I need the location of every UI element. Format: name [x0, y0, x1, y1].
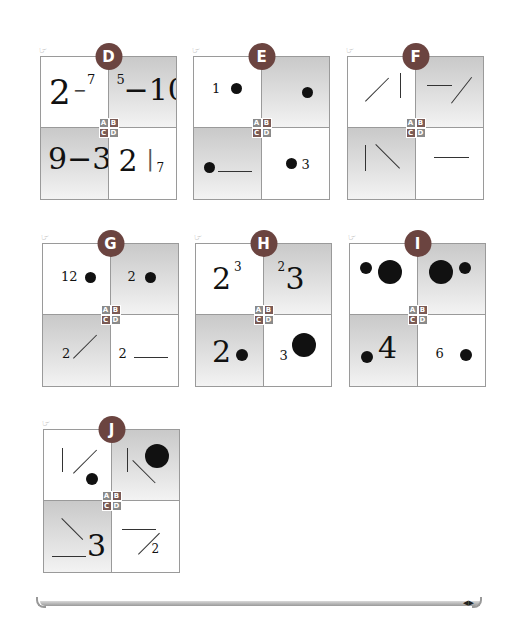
quadrant-key: A B C D	[99, 118, 119, 138]
dot	[460, 349, 472, 361]
diagonal-line	[375, 144, 400, 169]
digit: 3	[286, 264, 305, 294]
number: 6	[436, 347, 444, 360]
panel-label-badge: J	[98, 416, 125, 443]
number: 1	[212, 82, 220, 95]
dot	[145, 272, 156, 283]
key-c: C	[406, 128, 416, 138]
diagonal-line	[61, 518, 83, 540]
key-b: B	[264, 305, 274, 315]
diagonal-line	[451, 77, 472, 104]
quadrant-d: 3	[264, 315, 332, 386]
quadrant-b: 5 −10	[109, 57, 177, 128]
panel-label-badge: I	[404, 230, 431, 257]
pointing-hand-icon: ☞	[194, 232, 202, 242]
key-c: C	[408, 315, 418, 325]
pointing-hand-icon: ☞	[41, 232, 49, 242]
panel-f: ☞ F A B C D	[347, 56, 484, 200]
expression: 9−3	[48, 144, 109, 174]
key-d: D	[262, 128, 272, 138]
diagonal-line	[73, 335, 97, 359]
quadrant-b: 2	[111, 244, 179, 315]
key-a: A	[408, 305, 418, 315]
panel-d: ☞ D 2 − 7 5 −10 9−3 2 | 7 A B C D	[40, 56, 177, 200]
number: 3	[280, 349, 288, 362]
key-d: D	[264, 315, 274, 325]
digit: 2	[119, 146, 138, 176]
panel-label-badge: D	[95, 43, 122, 70]
number: 2	[152, 543, 160, 555]
quadrant-c	[194, 128, 262, 199]
quadrant-d: 6	[418, 315, 486, 386]
quadrant-d: 2 | 7	[109, 128, 177, 199]
quadrant-b	[416, 57, 484, 128]
panel-j: ☞ J 3 2 A B C D	[43, 429, 180, 573]
key-b: B	[262, 118, 272, 128]
diagonal-line	[73, 450, 97, 474]
key-d: D	[111, 315, 121, 325]
key-d: D	[416, 128, 426, 138]
vertical-bar: |	[147, 148, 154, 170]
dash: −	[73, 83, 86, 99]
vertical-line	[400, 73, 401, 98]
pointing-hand-icon: ☞	[192, 45, 200, 55]
digit: 4	[378, 333, 397, 363]
panel-label-badge: G	[97, 230, 124, 257]
quadrant-b	[418, 244, 486, 315]
vertical-line	[127, 448, 128, 472]
key-d: D	[112, 501, 122, 511]
quadrant-d: 2	[112, 501, 180, 572]
panel-label-badge: E	[248, 43, 275, 70]
horizontal-line	[52, 556, 86, 557]
quadrant-b	[262, 57, 330, 128]
large-dot	[378, 260, 402, 284]
number: 3	[302, 158, 310, 171]
panel-g: ☞ G 12 2 2 2 A B C D	[42, 243, 179, 387]
number: −10	[124, 75, 177, 105]
dot	[231, 83, 242, 94]
large-dot	[429, 260, 453, 284]
dot	[236, 349, 248, 361]
quadrant-c: 2	[196, 315, 264, 386]
dot	[302, 87, 313, 98]
horizontal-line	[427, 85, 452, 86]
key-a: A	[99, 118, 109, 128]
quadrant-c: 4	[350, 315, 418, 386]
number: 2	[119, 347, 127, 360]
panel-label-badge: H	[250, 230, 277, 257]
pointing-hand-icon: ☞	[42, 418, 50, 428]
dot	[361, 351, 373, 363]
large-dot	[145, 444, 169, 468]
key-a: A	[406, 118, 416, 128]
quadrant-d: 3	[262, 128, 330, 199]
panel-e: ☞ E 1 3 A B C D	[193, 56, 330, 200]
dot	[86, 473, 98, 485]
key-c: C	[99, 128, 109, 138]
panel-h: ☞ H 2 3 2 3 2 3 A B C D	[195, 243, 332, 387]
quadrant-key: A B C D	[102, 491, 122, 511]
dot	[459, 262, 471, 274]
number: 2	[128, 270, 136, 283]
panel-i: ☞ I 4 6 A B C D	[349, 243, 486, 387]
quadrant-key: A B C D	[406, 118, 426, 138]
dot	[360, 262, 372, 274]
horizontal-line	[218, 171, 252, 172]
quadrant-key: A B C D	[254, 305, 274, 325]
key-c: C	[254, 315, 264, 325]
diagonal-line	[365, 78, 389, 102]
key-c: C	[101, 315, 111, 325]
horizontal-line	[134, 357, 168, 358]
pointing-hand-icon: ☞	[346, 45, 354, 55]
key-a: A	[252, 118, 262, 128]
panel-label-badge: F	[402, 43, 429, 70]
key-a: A	[102, 491, 112, 501]
key-d: D	[109, 128, 119, 138]
key-a: A	[101, 305, 111, 315]
digit: 2	[49, 75, 71, 109]
horizontal-line	[122, 529, 156, 530]
digit: 3	[87, 531, 106, 561]
quadrant-key: A B C D	[408, 305, 428, 325]
number: 12	[61, 270, 78, 283]
page-footer-bar	[40, 601, 480, 606]
next-arrow-icon[interactable]: ◀▶	[463, 599, 474, 607]
